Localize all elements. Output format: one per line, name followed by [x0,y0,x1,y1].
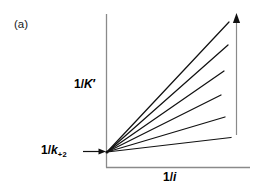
x-axis-label-variable: i [173,170,176,184]
x-axis-label: 1/i [163,171,176,183]
intercept-label: 1/k+2 [41,144,67,156]
panel-label: (a) [14,19,28,31]
kinetics-line-5 [107,45,228,152]
x-axis-label-prefix: 1/ [163,170,173,184]
kinetics-plot [0,0,262,192]
y-axis-label-variable: K [84,77,93,91]
trend-arrow-icon [233,13,240,135]
y-axis-label-prime: ′ [93,77,96,91]
y-axis-label-prefix: 1/ [74,77,84,91]
intercept-arrow-icon [83,148,106,154]
intercept-label-variable: k [51,143,58,157]
figure-container: (a) 1/K′ 1/i 1/k+2 [0,0,262,192]
intercept-label-subscript: +2 [58,150,67,159]
convergence-point [105,150,108,153]
intercept-label-prefix: 1/ [41,143,51,157]
kinetics-line-6 [107,22,229,152]
y-axis-label: 1/K′ [74,78,96,90]
kinetics-line-group [107,22,231,152]
